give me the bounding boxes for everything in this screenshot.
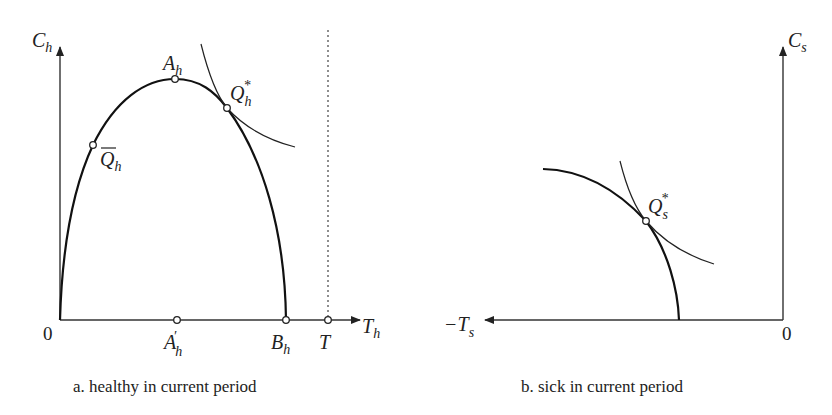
point-q-s-star [643,218,650,225]
panel-sick: Cs −Ts 0 Qs* b. sick in current period [444,29,807,396]
healthy-frontier-curve [60,79,286,320]
label-a-h: Ah [161,52,182,78]
caption-sick: b. sick in current period [521,377,683,396]
caption-healthy: a. healthy in current period [73,377,257,396]
label-neg-t-s: −Ts [444,313,475,340]
label-b-h: Bh [271,331,290,357]
label-a-h-prime: Ah′ [162,329,182,359]
label-origin-a: 0 [43,323,53,344]
panel-healthy: Ch Th 0 Ah Qh* Qh Ah′ Bh T a. healthy in… [32,29,380,396]
label-t-h: Th [362,315,380,341]
diagram-canvas: Ch Th 0 Ah Qh* Qh Ah′ Bh T a. healthy in… [0,0,832,415]
sick-frontier-curve [543,169,679,320]
label-q-h-bar: Qh [100,148,121,174]
label-t: T [319,331,332,353]
label-c-s: Cs [788,29,807,55]
point-t [325,317,332,324]
point-q-h-star [224,105,231,112]
label-origin-b: 0 [782,323,792,344]
label-q-s-star: Qs* [648,191,668,222]
label-q-h-star: Qh* [230,78,251,109]
point-a-h-prime [174,317,181,324]
label-c-h: Ch [32,29,52,55]
point-b-h [283,317,290,324]
svg-text:Qh: Qh [100,148,121,174]
point-q-h-bar [90,142,97,149]
